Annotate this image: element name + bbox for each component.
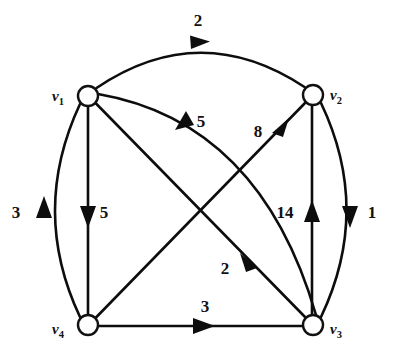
node-label-v1: v1 bbox=[52, 88, 64, 107]
node-label-v4: v4 bbox=[52, 321, 65, 340]
edge-path-v2-v3-arc bbox=[321, 103, 347, 317]
arrowhead-v1-v4-vert bbox=[80, 206, 96, 228]
edge-weight-v1-v2: 2 bbox=[194, 11, 203, 30]
edge-v2-to-v3 bbox=[321, 103, 358, 317]
edge-v4-to-v3 bbox=[98, 318, 303, 334]
edge-weight-v3-v1: 2 bbox=[221, 259, 230, 278]
arrowhead-v3-v2-vert bbox=[304, 200, 320, 222]
weighted-directed-graph-figure: v1 v2 v3 v4 2 5 8 14 1 3 5 2 3 bbox=[0, 0, 399, 361]
arrowhead-v2-v3-arc bbox=[342, 206, 358, 228]
edge-weight-v4-v3: 3 bbox=[201, 297, 210, 316]
node-label-v3: v3 bbox=[330, 321, 342, 340]
edge-weight-v4-v2: 8 bbox=[254, 122, 263, 141]
edge-weight-v3-v2: 14 bbox=[277, 203, 295, 222]
arrowhead-v4-v1-arc bbox=[36, 196, 52, 218]
edge-path-v1-v2-top bbox=[97, 53, 305, 88]
edge-v1-to-v4 bbox=[80, 106, 96, 316]
edge-weight-v2-v3: 1 bbox=[368, 203, 377, 222]
arrowhead-v3-v1-diag bbox=[240, 253, 257, 272]
node-v1[interactable] bbox=[78, 86, 98, 106]
node-v4[interactable] bbox=[78, 315, 98, 335]
graph-canvas: v1 v2 v3 v4 2 5 8 14 1 3 5 2 3 bbox=[0, 0, 399, 361]
edge-weight-v1-v4: 5 bbox=[100, 203, 109, 222]
edge-weight-v1-v3: 5 bbox=[197, 112, 206, 131]
node-label-v2: v2 bbox=[330, 87, 342, 106]
edge-path-v4-v1-arc bbox=[55, 104, 80, 317]
edge-weight-v4-v1: 3 bbox=[12, 203, 21, 222]
node-v2[interactable] bbox=[303, 85, 323, 105]
edge-v4-to-v1 bbox=[36, 104, 80, 317]
arrowhead-v4-v3-bottom bbox=[193, 318, 215, 334]
arrowhead-v1-v2-top bbox=[190, 36, 210, 50]
node-v3[interactable] bbox=[303, 315, 323, 335]
edge-v1-to-v2 bbox=[97, 36, 305, 89]
